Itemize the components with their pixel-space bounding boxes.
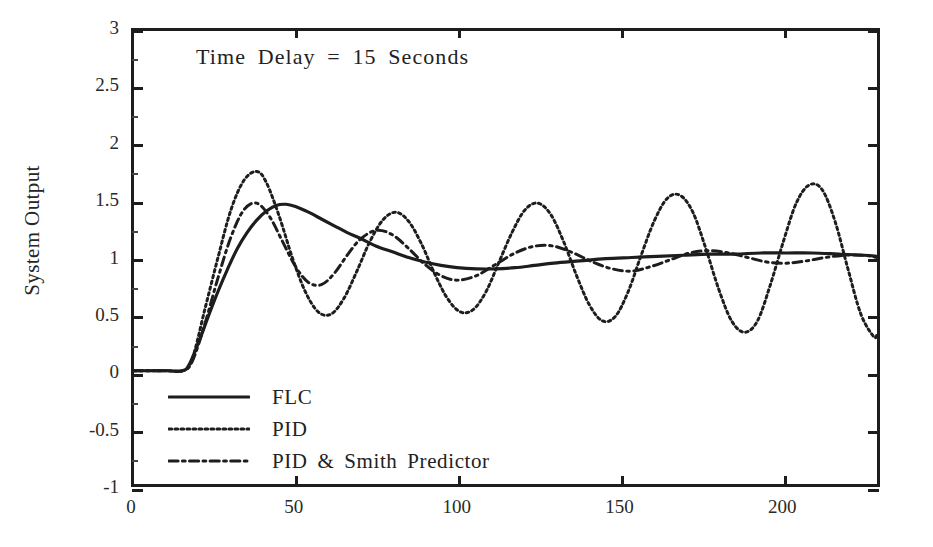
legend-label: PID [272,417,308,442]
legend-swatch-dotted [168,422,250,436]
y-tick-right [868,87,879,90]
series-line-pid [134,171,877,371]
y-tick-minor [132,59,138,61]
legend-swatch-solid [168,390,250,404]
legend-item: PID & Smith Predictor [168,445,490,477]
y-tick [132,30,143,33]
x-tick-label: 50 [259,497,329,516]
y-tick-label: 3 [59,18,119,37]
y-tick-right [868,144,879,147]
legend-label: PID & Smith Predictor [272,449,490,474]
legend: FLCPIDPID & Smith Predictor [168,381,490,477]
y-tick [132,144,143,147]
annotation-time-delay: Time Delay = 15 Seconds [196,44,469,70]
y-tick-minor [132,173,138,175]
y-tick-right [868,202,879,205]
y-tick [132,202,143,205]
y-tick [132,259,143,262]
y-tick-minor [132,231,138,233]
legend-item: FLC [168,381,490,413]
y-tick-right [868,316,879,319]
x-tick-top [784,29,787,38]
y-axis-title: System Output [20,111,45,351]
y-tick-minor [132,288,138,290]
legend-swatch-dashed [168,454,250,468]
y-tick-label: 2.5 [59,75,119,94]
x-tick [784,476,787,486]
y-tick-label: 0 [59,362,119,381]
x-tick [458,476,461,486]
x-tick-label: 150 [584,497,654,516]
x-tick-top [295,29,298,38]
y-tick-right [868,431,879,434]
y-tick-right [868,374,879,377]
series-line-flc [134,204,877,371]
y-tick-minor [132,460,138,462]
y-tick-label: -1 [59,477,119,496]
y-tick-right [868,259,879,262]
y-tick-label: -0.5 [59,420,119,439]
y-tick-right [868,30,879,33]
y-tick [132,374,143,377]
y-tick [132,431,143,434]
series-line-pid-smith-predictor [134,203,877,372]
figure-container: System Output -1-0.500.511.522.53 050100… [0,0,933,547]
x-tick-top [458,29,461,38]
x-tick-label: 0 [96,497,166,516]
y-tick-label: 2 [59,133,119,152]
y-tick-label: 0.5 [59,305,119,324]
y-tick-label: 1 [59,248,119,267]
y-tick [132,316,143,319]
x-tick [621,476,624,486]
x-tick-label: 100 [422,497,492,516]
x-tick [295,476,298,486]
x-tick-top [621,29,624,38]
legend-item: PID [168,413,490,445]
y-tick-right [868,489,879,492]
x-tick-label: 200 [747,497,817,516]
y-tick-minor [132,346,138,348]
y-tick-minor [132,116,138,118]
legend-label: FLC [272,385,312,410]
y-tick [132,489,143,492]
y-tick-label: 1.5 [59,190,119,209]
y-tick-minor [132,403,138,405]
y-tick [132,87,143,90]
